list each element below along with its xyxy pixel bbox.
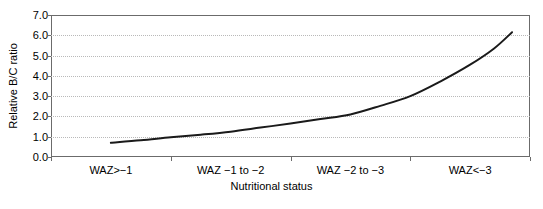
caption-fragment [22,205,522,208]
y-tick-label: 3.0 [20,91,48,102]
y-tick-label: 7.0 [20,10,48,21]
x-tick-label: WAZ>−1 [89,164,132,177]
y-tick-label: 6.0 [20,30,48,41]
x-tick-mark [291,157,292,161]
x-axis-tick-labels: WAZ>−1WAZ −1 to −2WAZ −2 to −3WAZ<−3 [0,164,543,178]
relative-bc-ratio-line [111,32,512,143]
y-tick-label: 4.0 [20,71,48,82]
y-tick-label: 0.0 [20,152,48,163]
x-tick-mark [51,157,52,161]
x-tick-mark [530,157,531,161]
plot-area [51,15,530,157]
x-tick-label: WAZ<−3 [449,164,492,177]
x-tick-mark [410,157,411,161]
y-tick-label: 2.0 [20,111,48,122]
x-axis-title: Nutritional status [0,180,543,193]
data-line-series [51,15,530,157]
y-tick-label: 5.0 [20,51,48,62]
x-tick-mark [171,157,172,161]
y-axis-title: Relative B/C ratio [6,6,20,166]
chart-figure: Relative B/C ratio 0.01.02.03.04.05.06.0… [0,0,543,209]
y-tick-label: 1.0 [20,132,48,143]
x-tick-label: WAZ −1 to −2 [197,164,264,177]
x-tick-label: WAZ −2 to −3 [317,164,384,177]
